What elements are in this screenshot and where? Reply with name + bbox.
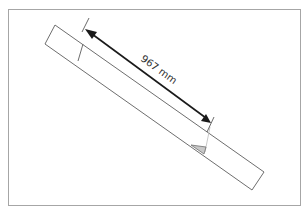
- dimension-label: 967 mm: [139, 53, 179, 86]
- beam: [45, 25, 264, 190]
- beam-diagram: 967 mm: [0, 0, 308, 211]
- arrowhead-left-icon: [85, 29, 97, 39]
